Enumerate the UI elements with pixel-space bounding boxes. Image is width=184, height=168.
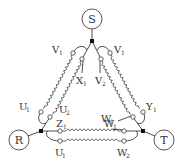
terminal-bottom-w1 <box>122 129 126 133</box>
svg-text:1: 1 <box>63 123 67 130</box>
label-bottom-w2: W 2 <box>117 147 130 159</box>
svg-text:1: 1 <box>26 106 30 113</box>
source-t: T <box>154 130 174 150</box>
label-bottom-w1: W 1 <box>104 118 117 130</box>
wire-s-right <box>92 41 101 59</box>
junction-s <box>90 39 94 43</box>
junction-r <box>39 129 43 133</box>
bottom-lower-coil <box>60 139 124 141</box>
leader-left-x1 <box>82 61 83 73</box>
label-left-v1: V 1 <box>51 44 63 56</box>
label-right-v2: V 2 <box>94 75 106 87</box>
terminal-left-u1 <box>39 110 43 114</box>
svg-text:Z: Z <box>56 118 63 129</box>
terminal-left-v1 <box>71 51 75 55</box>
svg-text:2: 2 <box>126 152 130 159</box>
leader-bottom-w1 <box>113 129 122 130</box>
svg-text:2: 2 <box>102 80 106 87</box>
label-left-u1: U 1 <box>19 101 30 113</box>
svg-text:1: 1 <box>62 152 66 159</box>
svg-text:1: 1 <box>153 106 157 113</box>
terminal-bottom-u1 <box>58 139 62 143</box>
winding-diagram: S R T V 1 X 1 U 1 U 2 V 1 V 2 Y 1 W 1 <box>0 0 184 168</box>
terminal-right-v2 <box>99 57 103 61</box>
source-r-label: R <box>15 134 24 147</box>
leader-right-w1 <box>118 116 131 121</box>
junction-t <box>141 129 145 133</box>
terminal-bottom-w2 <box>122 139 126 143</box>
label-right-v1: V 1 <box>113 44 125 56</box>
label-left-u2: U 2 <box>59 104 70 116</box>
svg-text:Y: Y <box>145 101 153 112</box>
source-t-label: T <box>160 134 168 147</box>
label-left-x1: X 1 <box>76 75 87 87</box>
svg-text:2: 2 <box>66 109 70 116</box>
terminal-left-u2 <box>48 115 52 119</box>
svg-text:1: 1 <box>59 49 63 56</box>
source-s-label: S <box>88 13 96 26</box>
svg-text:1: 1 <box>121 49 125 56</box>
terminal-right-y1 <box>141 110 145 114</box>
terminal-bottom-z1 <box>58 129 62 133</box>
source-s: S <box>82 9 102 29</box>
source-r: R <box>9 130 29 150</box>
label-bottom-z1: Z 1 <box>56 118 67 130</box>
svg-text:1: 1 <box>83 80 87 87</box>
terminal-right-v1 <box>108 51 112 55</box>
label-right-y1: Y 1 <box>145 101 157 113</box>
terminal-right-w1 <box>131 115 135 119</box>
label-bottom-u1: U 1 <box>55 147 66 159</box>
terminal-left-x1 <box>80 57 84 61</box>
